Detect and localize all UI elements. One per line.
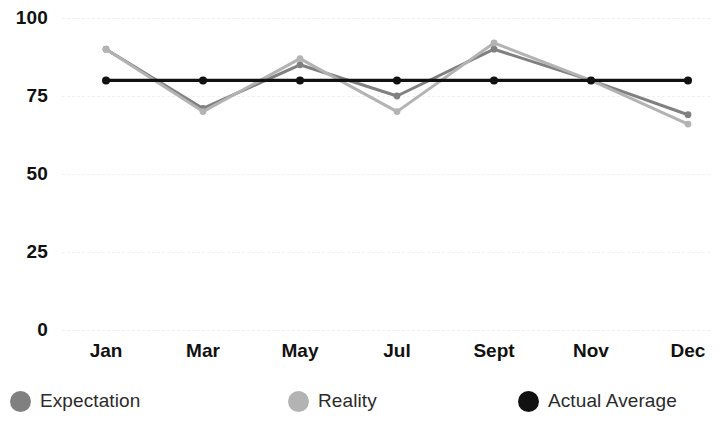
chart-legend: ExpectationRealityActual Average: [0, 386, 723, 427]
data-point: [685, 111, 692, 118]
x-axis: JanMarMayJulSeptNovDec: [62, 340, 710, 370]
legend-swatch-icon: [518, 391, 539, 412]
series-lines: [62, 18, 710, 330]
x-axis-tick-label: Mar: [186, 340, 220, 362]
x-axis-tick-label: Jan: [90, 340, 123, 362]
data-point: [587, 76, 595, 84]
plot-area: [62, 18, 710, 330]
y-axis-tick-label: 100: [0, 7, 48, 29]
y-axis-tick-label: 25: [0, 241, 48, 263]
legend-label: Reality: [318, 390, 377, 412]
y-axis: 0255075100: [0, 0, 48, 348]
data-point: [297, 55, 304, 62]
gridline: [62, 330, 710, 331]
line-chart: 0255075100 JanMarMayJulSeptNovDec Expect…: [0, 0, 723, 427]
x-axis-tick-label: Jul: [383, 340, 410, 362]
legend-item-reality[interactable]: Reality: [288, 386, 377, 416]
data-point: [491, 46, 498, 53]
data-point: [394, 108, 401, 115]
data-point: [199, 76, 207, 84]
data-point: [684, 76, 692, 84]
x-axis-tick-label: Dec: [671, 340, 706, 362]
legend-item-actual-average[interactable]: Actual Average: [518, 386, 677, 416]
y-axis-tick-label: 50: [0, 163, 48, 185]
data-point: [490, 76, 498, 84]
y-axis-tick-label: 0: [0, 319, 48, 341]
data-point: [297, 61, 304, 68]
series-actual-average: [102, 76, 692, 84]
data-point: [296, 76, 304, 84]
legend-swatch-icon: [288, 391, 309, 412]
legend-swatch-icon: [10, 391, 31, 412]
x-axis-tick-label: May: [282, 340, 319, 362]
data-point: [103, 46, 110, 53]
x-axis-tick-label: Nov: [573, 340, 609, 362]
data-point: [102, 76, 110, 84]
x-axis-tick-label: Sept: [473, 340, 514, 362]
data-point: [394, 93, 401, 100]
legend-label: Expectation: [40, 390, 140, 412]
data-point: [491, 40, 498, 47]
data-point: [685, 121, 692, 128]
data-point: [393, 76, 401, 84]
legend-item-expectation[interactable]: Expectation: [10, 386, 140, 416]
data-point: [200, 108, 207, 115]
legend-label: Actual Average: [548, 390, 677, 412]
y-axis-tick-label: 75: [0, 85, 48, 107]
